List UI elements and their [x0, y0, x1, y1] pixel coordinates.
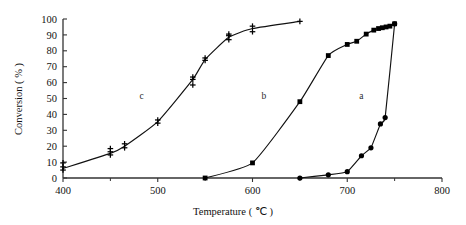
series-label-b: b [261, 91, 266, 101]
x-tick-label: 800 [434, 185, 450, 196]
y-tick-label: 30 [47, 125, 58, 136]
y-tick-label: 90 [47, 30, 58, 41]
data-point-circle [378, 121, 383, 126]
y-tick-label: 80 [47, 45, 58, 56]
x-tick-label: 700 [339, 185, 355, 196]
y-tick-label: 60 [47, 77, 58, 88]
y-tick-label: 10 [47, 157, 58, 168]
y-tick-label: 100 [41, 14, 57, 25]
data-point-square [364, 32, 369, 37]
y-tick-label: 40 [47, 109, 58, 120]
data-point-square [345, 42, 350, 47]
x-tick-label: 400 [55, 185, 71, 196]
data-point-square [250, 160, 255, 165]
y-axis-title: Conversion ( % ) [13, 62, 25, 135]
data-point-square [203, 176, 208, 181]
data-point-circle [383, 115, 388, 120]
data-point-circle [359, 153, 364, 158]
series-label-c: c [140, 91, 144, 101]
y-tick-label: 0 [52, 173, 57, 184]
y-tick-label: 50 [47, 93, 58, 104]
data-point-square [297, 99, 302, 104]
y-tick-label: 20 [47, 141, 58, 152]
x-tick-label: 500 [150, 185, 166, 196]
y-tick-label: 70 [47, 61, 58, 72]
data-point-square [387, 24, 392, 29]
data-point-circle [368, 145, 373, 150]
data-point-square [392, 21, 397, 26]
data-point-circle [297, 175, 302, 180]
data-point-square [326, 53, 331, 58]
x-axis-title: Temperature ( ℃ ) [193, 206, 273, 218]
data-point-circle [326, 172, 331, 177]
data-point-square [354, 39, 359, 44]
data-point-circle [345, 169, 350, 174]
data-point-square [371, 28, 376, 33]
chart-figure: 4005006007008000102030405060708090100 ab… [0, 0, 466, 225]
conversion-vs-temperature-chart: 4005006007008000102030405060708090100 ab… [0, 0, 466, 225]
x-tick-label: 600 [245, 185, 261, 196]
